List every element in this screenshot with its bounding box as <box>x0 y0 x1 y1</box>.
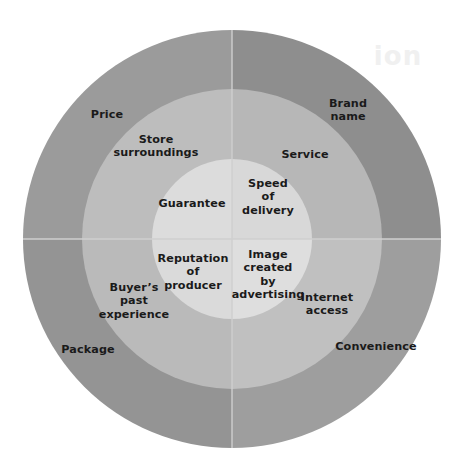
concentric-rings-diagram: ion Price Brand name Package Convenience… <box>0 0 469 466</box>
rings-canvas <box>0 0 469 466</box>
